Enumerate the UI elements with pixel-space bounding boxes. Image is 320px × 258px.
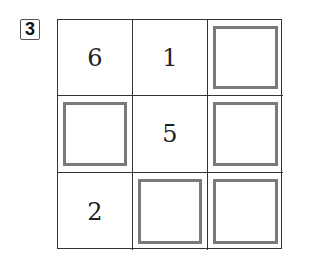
grid-cell-r3c2 — [133, 173, 208, 250]
answer-box[interactable] — [138, 179, 202, 244]
number-grid: 6 1 5 2 — [57, 19, 282, 249]
answer-box[interactable] — [213, 179, 278, 244]
answer-box[interactable] — [213, 26, 278, 89]
answer-box[interactable] — [213, 102, 278, 166]
answer-box[interactable] — [63, 102, 127, 166]
grid-cell-r3c1: 2 — [58, 173, 133, 250]
grid-cell-r1c3 — [208, 20, 283, 96]
grid-cell-r2c3 — [208, 96, 283, 173]
problem-number: 3 — [20, 19, 40, 40]
grid-cell-r1c1: 6 — [58, 20, 133, 96]
grid-cell-r2c2: 5 — [133, 96, 208, 173]
grid-cell-r1c2: 1 — [133, 20, 208, 96]
grid-cell-r2c1 — [58, 96, 133, 173]
grid-cell-r3c3 — [208, 173, 283, 250]
